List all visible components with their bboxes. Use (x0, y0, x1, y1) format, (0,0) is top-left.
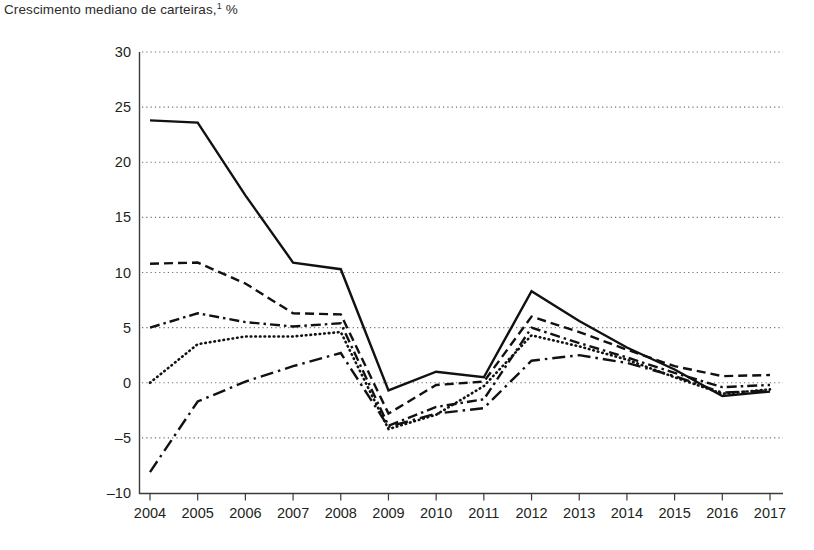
data-line-series-4 (150, 332, 770, 429)
y-axis-tick-label: 5 (123, 320, 131, 336)
y-axis-tick-label: 25 (115, 99, 131, 115)
x-axis-tick-label: 2012 (515, 505, 547, 521)
y-axis-tick-label: 20 (115, 154, 131, 170)
y-axis-tick-labels: 302520151050–5–10 (107, 44, 131, 501)
chart-container: Crescimento mediano de carteiras,1 % 302… (0, 0, 814, 550)
x-axis-tick-label: 2004 (134, 505, 166, 521)
y-axis-tick-label: 15 (115, 209, 131, 225)
x-axis-tickmarks (150, 494, 770, 501)
x-axis-tick-label: 2014 (611, 505, 643, 521)
x-axis-tick-labels: 2004200520062007200820092010201120122013… (134, 505, 786, 521)
x-axis-tick-label: 2005 (182, 505, 214, 521)
line-chart-plot: 302520151050–5–10 2004200520062007200820… (0, 0, 814, 550)
x-axis-tick-label: 2008 (325, 505, 357, 521)
data-series-group (150, 120, 770, 472)
x-axis-tick-label: 2007 (277, 505, 309, 521)
x-axis-tick-label: 2016 (706, 505, 738, 521)
y-axis-tick-label: 0 (123, 375, 131, 391)
x-axis-tick-label: 2010 (420, 505, 452, 521)
x-axis-tick-label: 2013 (563, 505, 595, 521)
data-line-series-2 (150, 263, 770, 414)
x-axis-tick-label: 2015 (658, 505, 690, 521)
x-axis-tick-label: 2017 (754, 505, 786, 521)
x-axis-tick-label: 2006 (229, 505, 261, 521)
y-axis-tick-label: –5 (115, 430, 131, 446)
data-line-series-1 (150, 120, 770, 396)
x-axis-tick-label: 2009 (372, 505, 404, 521)
x-axis-tick-label: 2011 (468, 505, 499, 521)
y-axis-tick-label: –10 (107, 485, 131, 501)
y-axis-tick-label: 10 (115, 265, 131, 281)
y-axis-tick-label: 30 (115, 44, 131, 60)
